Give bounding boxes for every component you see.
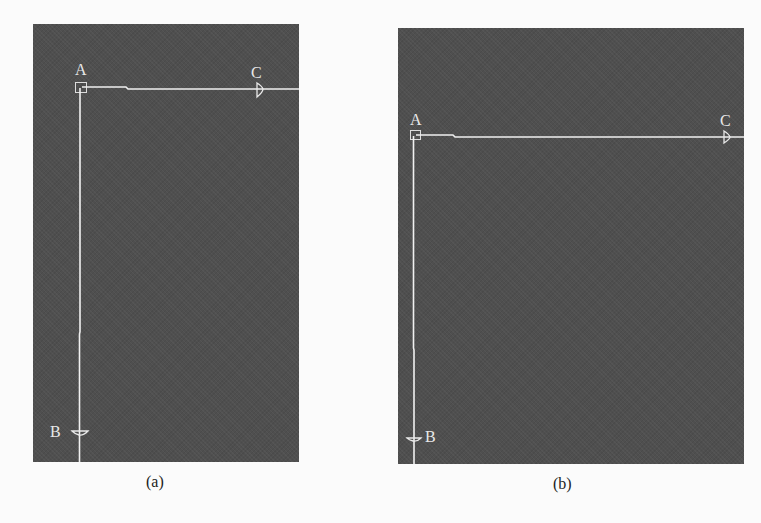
caption-b: (b) <box>553 476 572 492</box>
label-point-a: A <box>410 112 422 128</box>
label-point-c: C <box>251 65 262 81</box>
vertical-wire-a-to-b <box>80 88 81 462</box>
half-arrow-marker-c-icon <box>257 83 263 97</box>
panel-b: A C B <box>398 28 744 464</box>
label-point-b: B <box>50 424 61 440</box>
horizontal-wire-a-to-c <box>416 135 744 137</box>
panel-a: A C B <box>33 24 299 462</box>
label-point-c: C <box>720 113 731 129</box>
panel-b-lines <box>398 28 744 464</box>
label-point-b: B <box>425 429 436 445</box>
panel-a-lines <box>33 24 299 462</box>
vertical-wire-a-to-b <box>414 136 415 464</box>
label-point-a: A <box>75 62 87 78</box>
caption-a: (a) <box>146 474 164 490</box>
horizontal-wire-a-to-c <box>82 87 299 89</box>
